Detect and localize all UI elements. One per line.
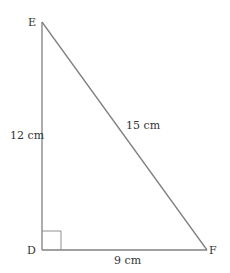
right-angle-marker xyxy=(42,231,61,250)
vertex-label-f: F xyxy=(209,244,217,257)
vertex-label-e: E xyxy=(28,16,36,29)
side-label-df: 9 cm xyxy=(114,254,142,267)
vertex-label-d: D xyxy=(27,244,36,257)
side-ef xyxy=(42,22,207,250)
side-label-ef: 15 cm xyxy=(126,119,161,132)
side-label-ed: 12 cm xyxy=(10,129,45,142)
triangle-def xyxy=(42,22,207,250)
triangle-diagram: E D F 12 cm 15 cm 9 cm xyxy=(0,0,230,273)
